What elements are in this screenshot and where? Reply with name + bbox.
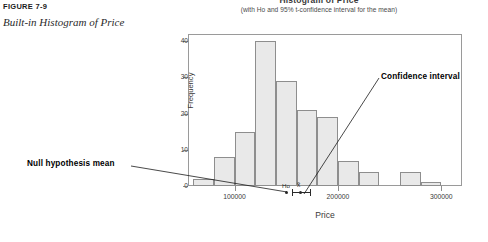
ho-marker-label: Ho — [282, 182, 290, 189]
callout-null-hypothesis-mean: Null hypothesis mean — [27, 159, 115, 168]
ci-mean-dot — [299, 191, 302, 194]
ho-marker-dot — [285, 191, 288, 194]
ci-cap-right — [310, 189, 311, 196]
histogram-chart: Histogram of Price (with Ho and 95% t-co… — [0, 0, 488, 242]
confidence-interval-marker-group: Ho x̄ — [0, 0, 488, 242]
ci-cap-left — [292, 189, 293, 196]
callout-confidence-interval: Confidence interval — [381, 72, 460, 81]
xbar-marker-label: x̄ — [297, 181, 300, 188]
